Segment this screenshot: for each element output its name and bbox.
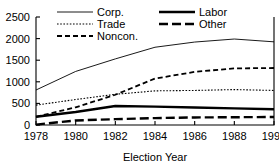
y-tick-label: 500 (12, 97, 30, 109)
line-chart: 0 500 1000 1500 2000 2500 1978 1980 1982… (0, 0, 279, 168)
chart-svg: 0 500 1000 1500 2000 2500 1978 1980 1982… (0, 0, 279, 168)
x-tick-label: 1978 (24, 130, 48, 142)
y-tick-label: 1000 (6, 76, 30, 88)
x-tick-label: 1984 (143, 130, 167, 142)
y-tick-label: 2000 (6, 33, 30, 45)
x-axis-title: Election Year (123, 151, 188, 163)
x-tick-label: 1982 (103, 130, 127, 142)
x-tick-label: 1986 (182, 130, 206, 142)
x-tick-label: 1990 (262, 130, 279, 142)
x-tick-label: 1980 (63, 130, 87, 142)
legend-label-corp: Corp. (97, 6, 124, 18)
legend-label-trade: Trade (97, 18, 125, 30)
y-tick-label: 2500 (6, 11, 30, 23)
y-tick-label: 1500 (6, 54, 30, 66)
legend-label-labor: Labor (199, 6, 227, 18)
legend-label-noncon: Noncon. (97, 30, 138, 42)
legend-label-other: Other (199, 18, 227, 30)
x-tick-label: 1988 (222, 130, 246, 142)
